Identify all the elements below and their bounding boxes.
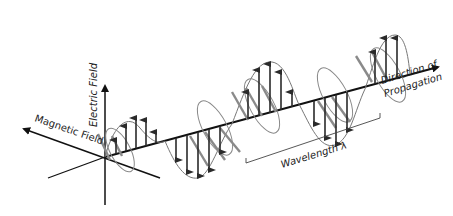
electric-field-label: Electric Field xyxy=(88,62,99,127)
magnetic-wave-envelope xyxy=(100,43,413,176)
wavelength-label: Wavelength λ xyxy=(279,139,348,170)
diagram-canvas: Electric Field Magnetic Field Direction … xyxy=(0,0,453,216)
em-wave-diagram: Electric Field Magnetic Field Direction … xyxy=(0,0,453,216)
axis-extension xyxy=(48,157,105,178)
